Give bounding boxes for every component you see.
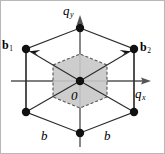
y-axis-subscript: y (70, 10, 74, 19)
vector-label-b1: b1 (2, 39, 13, 52)
vector-label-b2: b2 (140, 41, 151, 54)
vector-b1-subscript: 1 (9, 44, 13, 53)
x-axis-label: qx (135, 87, 145, 102)
lattice-point-upper-left (22, 45, 30, 53)
figure-canvas (1, 1, 165, 154)
lattice-point-lower-right (130, 108, 138, 116)
origin-label: 0 (71, 89, 78, 102)
reciprocal-lattice-figure: qy qx b1 b2 0 b b (0, 0, 165, 154)
lattice-point-lower-left (22, 108, 30, 116)
lattice-point-bottom (76, 129, 84, 137)
y-axis-label: qy (63, 4, 73, 19)
lattice-point-top (76, 24, 84, 32)
x-axis-subscript: x (142, 93, 146, 102)
edge-label-b-left: b (41, 129, 48, 142)
lattice-point-upper-right (130, 45, 138, 53)
edge-label-b-right: b (104, 129, 111, 142)
lattice-point-origin (76, 77, 84, 85)
vector-b2-subscript: 2 (147, 46, 151, 55)
